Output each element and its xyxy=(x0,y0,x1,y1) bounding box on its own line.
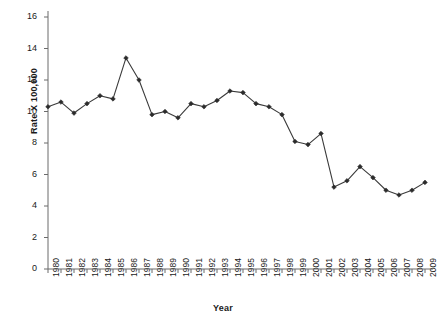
data-series-line xyxy=(48,58,425,195)
data-series-markers xyxy=(46,56,428,198)
line-chart: Rate X 100,000 0246810121416 19801981198… xyxy=(0,0,446,323)
plot-area xyxy=(0,0,446,323)
axis-tick-marks xyxy=(44,17,425,273)
x-axis-title: Year xyxy=(0,303,446,313)
axis-lines xyxy=(48,11,433,269)
